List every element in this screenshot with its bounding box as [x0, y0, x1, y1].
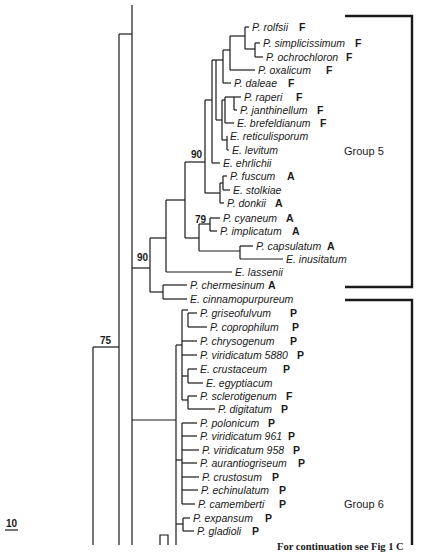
- leaf-taxon-name: E. crustaceum: [200, 363, 267, 375]
- bootstrap-value: 90: [191, 149, 203, 160]
- leaf-taxon-name: P. echinulatum: [201, 484, 269, 496]
- leaf-taxon-name: P. gladioli: [197, 525, 242, 537]
- leaf-habitat-tag: F: [346, 51, 353, 63]
- leaf-habitat-tag: A: [327, 240, 335, 252]
- leaf-habitat-tag: F: [317, 104, 324, 116]
- leaf-taxon-name: E. lassenii: [235, 266, 284, 278]
- leaf-taxon-name: P. cyaneum: [223, 212, 277, 224]
- leaf-habitat-tag: F: [288, 77, 295, 89]
- leaf-habitat-tag: F: [326, 64, 333, 76]
- leaf-habitat-tag: P: [292, 321, 299, 333]
- leaf-habitat-tag: P: [290, 307, 297, 319]
- leaf-habitat-tag: A: [275, 197, 283, 209]
- leaf-taxon-name: E. reticulisporum: [230, 130, 308, 142]
- leaf-taxon-name: P. fuscum: [230, 170, 276, 182]
- leaf-habitat-tag: P: [283, 363, 290, 375]
- bootstrap-value: 79: [195, 214, 207, 225]
- leaf-habitat-tag: A: [292, 225, 300, 237]
- leaf-taxon-name: P. rolfsii: [252, 21, 289, 33]
- leaf-taxon-name: P. aurantiogriseum: [200, 457, 287, 469]
- leaf-taxon-name: P. donkii: [227, 197, 267, 209]
- leaf-habitat-tag: A: [268, 279, 276, 291]
- leaf-taxon-name: P. implicatum: [220, 225, 282, 237]
- group-6-label: Group 6: [344, 498, 384, 510]
- leaf-taxon-name: E. ehrlichii: [223, 157, 272, 169]
- leaf-taxon-name: P. polonicum: [200, 417, 260, 429]
- bootstrap-value: 90: [137, 252, 149, 263]
- leaf-habitat-tag: P: [272, 471, 279, 483]
- leaf-taxon-name: E. cinnamopurpureum: [190, 293, 294, 305]
- leaf-habitat-tag: P: [298, 457, 305, 469]
- leaf-taxon-name: P. viridicatum 958: [202, 444, 284, 456]
- leaf-taxon-name: P. daleae: [234, 77, 277, 89]
- leaf-taxon-name: E. brefeldianum: [237, 117, 311, 129]
- leaf-habitat-tag: P: [279, 484, 286, 496]
- leaf-taxon-name: P. digitatum: [218, 403, 272, 415]
- leaf-taxon-name: P. capsulatum: [256, 240, 321, 252]
- leaf-habitat-tag: P: [268, 417, 275, 429]
- scale-bar: 10: [5, 518, 18, 530]
- bootstrap-values: 90 79 90 75: [100, 149, 207, 346]
- leaf-habitat-tag: F: [286, 390, 293, 402]
- group-brackets: Group 5 Group 6: [344, 16, 412, 545]
- leaf-habitat-tag: A: [287, 170, 295, 182]
- scale-bar-label: 10: [6, 518, 18, 529]
- leaf-habitat-tag: F: [299, 21, 306, 33]
- leaf-taxon-name: P. camemberti: [198, 498, 265, 510]
- leaf-habitat-tag: P: [288, 430, 295, 442]
- leaf-habitat-tag: F: [320, 117, 327, 129]
- leaf-taxon-name: P. janthinellum: [240, 104, 308, 116]
- leaf-habitat-tag: P: [281, 403, 288, 415]
- phylogenetic-tree: Group 5 Group 6 90 79 90 75 P. rolfsiiFP…: [0, 0, 437, 552]
- leaf-habitat-tag: F: [355, 37, 362, 49]
- leaf-taxon-name: P. expansum: [193, 512, 253, 524]
- leaf-taxon-name: P. simplicissimum: [263, 37, 345, 49]
- leaf-taxon-name: E. levitum: [232, 144, 278, 156]
- leaf-habitat-tag: P: [279, 498, 286, 510]
- leaf-taxon-name: P. viridicatum 5880: [200, 349, 288, 361]
- leaf-taxon-name: P. oxalicum: [258, 64, 311, 76]
- leaf-habitat-tag: P: [293, 444, 300, 456]
- leaf-taxon-name: P. sclerotigenum: [200, 390, 277, 402]
- leaf-taxon-name: P. ochrochloron: [266, 51, 338, 63]
- leaf-habitat-tag: A: [286, 212, 294, 224]
- leaf-taxon-name: P. viridicatum 961: [200, 430, 282, 442]
- leaf-taxon-name: P. coprophilum: [210, 321, 279, 333]
- leaf-habitat-tag: P: [252, 525, 259, 537]
- leaf-taxon-name: E. egyptiacum: [206, 377, 273, 389]
- leaf-habitat-tag: F: [296, 91, 303, 103]
- leaf-taxon-name: P. griseofulvum: [200, 307, 271, 319]
- leaf-habitat-tag: P: [290, 335, 297, 347]
- group-5-label: Group 5: [344, 145, 384, 157]
- leaf-taxon-name: E. inusitatum: [286, 253, 347, 265]
- continuation-note: For continuation see Fig 1 C: [277, 541, 404, 552]
- leaf-taxon-name: P. chrysogenum: [200, 335, 275, 347]
- bootstrap-value: 75: [100, 335, 112, 346]
- leaf-habitat-tag: P: [265, 512, 272, 524]
- leaf-taxon-name: P. raperi: [244, 91, 283, 103]
- leaf-taxon-name: P. chermesinum: [190, 279, 265, 291]
- leaf-taxon-name: P. crustosum: [202, 471, 262, 483]
- leaf-taxon-name: E. stolkiae: [233, 184, 282, 196]
- leaf-habitat-tag: P: [297, 349, 304, 361]
